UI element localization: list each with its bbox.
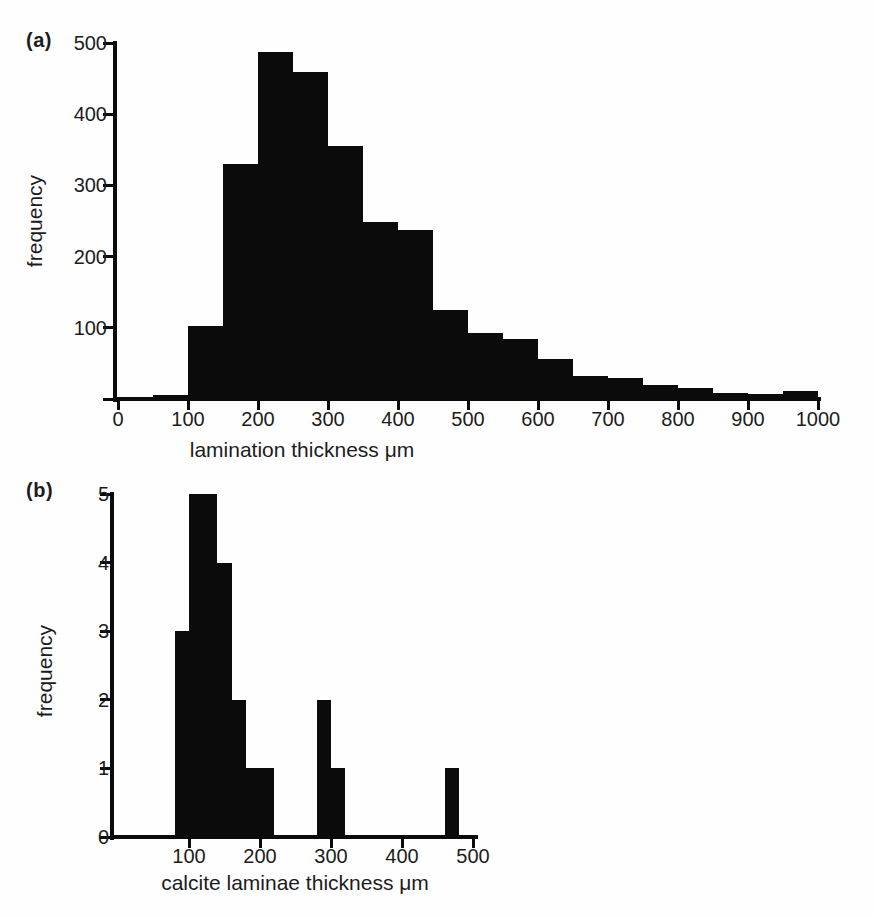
- panel-a-histogram-bar: [748, 394, 783, 399]
- panel-b-histogram-bar: [246, 768, 260, 837]
- panel-b-y-tick-label: 3: [39, 620, 109, 642]
- panel-a-histogram-bar: [153, 395, 188, 399]
- panel-a-x-tick-label: 100: [153, 408, 223, 430]
- panel-a-histogram-bar: [643, 385, 678, 399]
- panel-a-x-tick-label: 700: [573, 408, 643, 430]
- panel-a-x-tick-label: 300: [293, 408, 363, 430]
- panel-b-y-tick-label: 1: [39, 757, 109, 779]
- panel-a-histogram-bar: [433, 310, 468, 399]
- panel-b-x-axis: [110, 835, 478, 839]
- panel-a-histogram-bar: [573, 376, 608, 399]
- panel-b-histogram-bar: [445, 768, 459, 837]
- panel-b-x-tick-label: 300: [296, 845, 366, 867]
- panel-b-histogram-bar: [260, 768, 274, 837]
- panel-b-histogram-bar: [175, 631, 189, 837]
- panel-a-histogram-bar: [783, 391, 818, 399]
- panel-a-y-tick-label: 400: [37, 103, 107, 125]
- panel-a-y-axis: [113, 41, 117, 402]
- panel-b-y-tick-label: 4: [39, 552, 109, 574]
- panel-a-x-axis-title: lamination thickness μm: [142, 438, 462, 462]
- panel-b-histogram-bar: [317, 700, 331, 837]
- panel-b-x-tick-label: 100: [154, 845, 224, 867]
- panel-a-y-tick-label: 200: [37, 246, 107, 268]
- panel-b-y-tick-label: 5: [39, 483, 109, 505]
- panel-a-histogram-bar: [223, 164, 258, 399]
- panel-b-x-tick-label: 500: [438, 845, 508, 867]
- panel-b-histogram-bar: [217, 563, 231, 837]
- panel-b-y-axis-title: frequency: [33, 591, 57, 751]
- panel-a-x-tick-label: 200: [223, 408, 293, 430]
- panel-a-histogram-bar: [258, 52, 293, 399]
- panel-a-x-tick-label: 400: [363, 408, 433, 430]
- panel-b-y-tick-label: 2: [39, 689, 109, 711]
- panel-a-y-tick-label: 100: [37, 317, 107, 339]
- panel-a-x-tick-label: 900: [713, 408, 783, 430]
- panel-a-histogram-bar: [363, 222, 398, 399]
- figure-canvas: (a) frequency lamination thickness μm (b…: [0, 0, 873, 918]
- panel-a-histogram-bar: [398, 230, 433, 399]
- panel-b-histogram-bar: [232, 700, 246, 837]
- panel-a-y-tick: [103, 398, 115, 401]
- panel-b-histogram-bar: [203, 494, 217, 837]
- panel-a-x-tick-label: 600: [503, 408, 573, 430]
- panel-a-x-tick-label: 1000: [783, 408, 853, 430]
- panel-b-histogram-bar: [331, 768, 345, 837]
- panel-b-x-tick-label: 200: [225, 845, 295, 867]
- panel-a-histogram-bar: [678, 388, 713, 399]
- panel-a-y-tick-label: 500: [37, 32, 107, 54]
- panel-a-y-tick-label: 300: [37, 174, 107, 196]
- panel-a-x-tick-label: 800: [643, 408, 713, 430]
- panel-b-y-axis: [110, 492, 114, 840]
- panel-b-x-tick-label: 400: [367, 845, 437, 867]
- panel-a-histogram-bar: [118, 398, 153, 399]
- panel-b-histogram-bar: [189, 494, 203, 837]
- panel-b-x-axis-title: calcite laminae thickness μm: [135, 871, 455, 895]
- panel-a-x-tick-label: 0: [83, 408, 153, 430]
- panel-a-histogram-bar: [538, 359, 573, 399]
- panel-a-histogram-bar: [503, 339, 538, 399]
- panel-a-histogram-bar: [293, 72, 328, 399]
- panel-a-y-axis-title: frequency: [23, 141, 47, 301]
- panel-a-histogram-bar: [713, 393, 748, 399]
- panel-a-histogram-bar: [608, 378, 643, 399]
- panel-b-y-tick-label: 0: [39, 826, 109, 848]
- panel-a-x-tick-label: 500: [433, 408, 503, 430]
- panel-a-histogram-bar: [328, 146, 363, 399]
- panel-a-histogram-bar: [468, 333, 503, 399]
- panel-a-histogram-bar: [188, 326, 223, 399]
